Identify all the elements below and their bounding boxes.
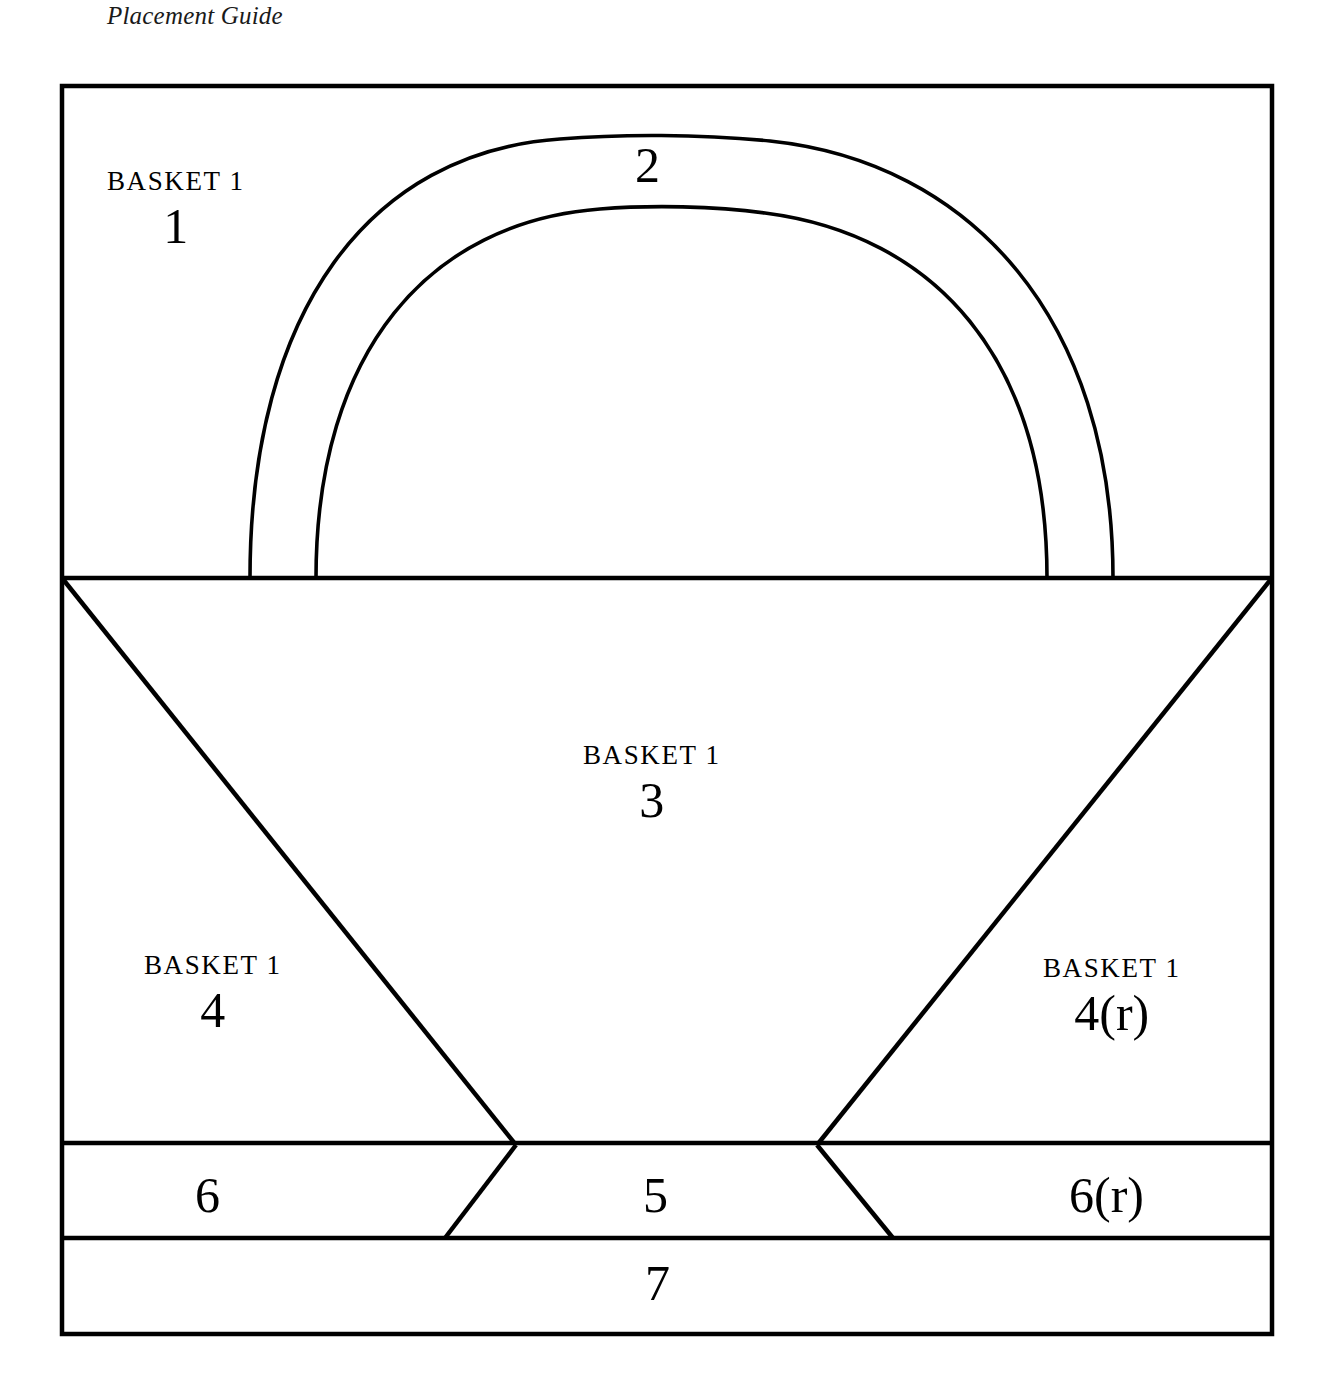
basket-left-diagonal — [62, 578, 516, 1145]
trapezoid-left-edge — [445, 1145, 516, 1238]
trapezoid-right-edge — [817, 1145, 893, 1238]
piece-label-4: BASKET 1 4 — [144, 952, 282, 1035]
piece-6-number: 6 — [195, 1170, 220, 1220]
piece-label-6r: 6(r) — [1069, 1170, 1144, 1220]
piece-7-number: 7 — [645, 1258, 670, 1308]
handle-outer-arc — [250, 135, 1113, 578]
piece-3-number: 3 — [583, 775, 721, 825]
piece-5-number: 5 — [643, 1170, 668, 1220]
piece-label-3: BASKET 1 3 — [583, 742, 721, 825]
piece-3-name: BASKET 1 — [583, 742, 721, 769]
piece-label-5: 5 — [643, 1170, 668, 1220]
piece-label-4r: BASKET 1 4(r) — [1043, 955, 1181, 1038]
piece-1-number: 1 — [107, 201, 245, 251]
piece-2-number: 2 — [635, 140, 660, 190]
piece-label-2: 2 — [635, 140, 660, 190]
piece-4-name: BASKET 1 — [144, 952, 282, 979]
basket-right-diagonal — [817, 578, 1272, 1145]
handle-inner-arc — [316, 207, 1047, 578]
piece-6r-number: 6(r) — [1069, 1170, 1144, 1220]
piece-label-6: 6 — [195, 1170, 220, 1220]
piece-label-1: BASKET 1 1 — [107, 168, 245, 251]
piece-4r-number: 4(r) — [1043, 988, 1181, 1038]
piece-1-name: BASKET 1 — [107, 168, 245, 195]
piece-4-number: 4 — [144, 985, 282, 1035]
piece-4r-name: BASKET 1 — [1043, 955, 1181, 982]
piece-label-7: 7 — [645, 1258, 670, 1308]
block-outer-frame — [62, 86, 1272, 1334]
